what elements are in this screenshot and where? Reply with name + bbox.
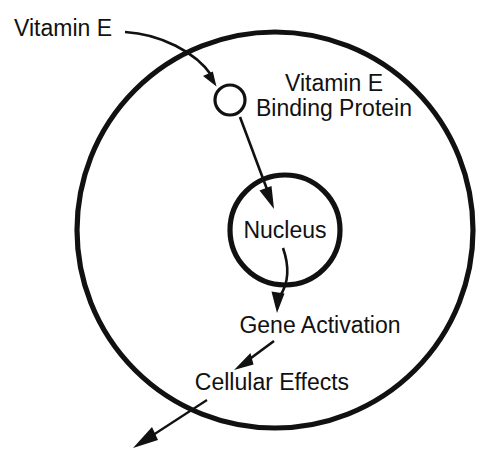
binding-protein-label-line1: Vitamin E [285, 70, 383, 96]
binding-protein-circle [215, 85, 245, 115]
gene-activation-to-cellular-effects-arrow [234, 341, 274, 370]
vitamin-e-pathway-diagram: Vitamin E Vitamin E Binding Protein Nucl… [0, 0, 494, 457]
cellular-effects-outward-arrow-head [133, 427, 158, 448]
diagram-canvas: Vitamin E Vitamin E Binding Protein Nucl… [0, 0, 494, 457]
vitamin-e-to-protein-arrow-shaft [125, 32, 212, 76]
nucleus-label: Nucleus [243, 217, 326, 243]
protein-to-nucleus-arrow-shaft [240, 117, 268, 192]
vitamin-e-label: Vitamin E [14, 15, 112, 41]
nucleus-to-gene-activation-arrow-head [272, 292, 285, 314]
cellular-effects-label: Cellular Effects [195, 369, 349, 395]
gene-activation-to-cellular-effects-arrow-head [234, 353, 254, 370]
protein-to-nucleus-arrow-head [260, 186, 275, 209]
vitamin-e-to-protein-arrow-head [203, 71, 217, 86]
nucleus-to-gene-activation-arrow-shaft [280, 248, 287, 296]
cellular-effects-outward-arrow [133, 400, 207, 448]
nucleus-to-gene-activation-arrow [272, 248, 288, 313]
binding-protein-label-line2: Binding Protein [256, 95, 412, 121]
gene-activation-label: Gene Activation [239, 312, 400, 338]
